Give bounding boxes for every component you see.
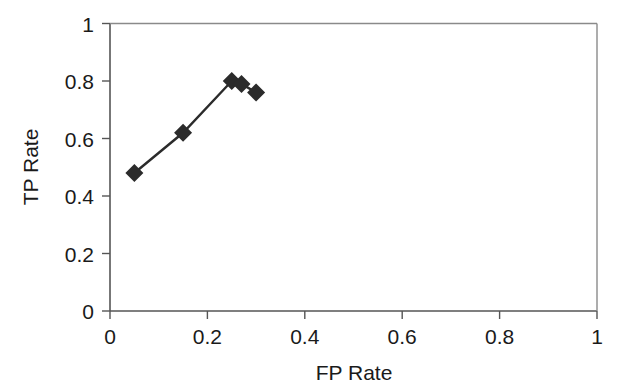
data-series-layer [125, 72, 265, 182]
data-point-marker[interactable] [247, 84, 265, 102]
y-axis-title: TP Rate [19, 129, 42, 206]
x-tick-labels: 0 0.2 0.4 0.6 0.8 1 [104, 325, 603, 348]
x-axis-ticks [110, 311, 597, 319]
x-tick-label-3: 0.6 [388, 325, 417, 348]
y-tick-label-0: 0 [82, 300, 94, 323]
roc-chart-figure: 0 0.2 0.4 0.6 0.8 1 0 0.2 0.4 0.6 0.8 1 … [0, 0, 631, 392]
y-axis-ticks [102, 24, 110, 312]
x-axis-title: FP Rate [316, 361, 393, 384]
x-tick-label-1: 0.2 [193, 325, 222, 348]
chart-canvas: 0 0.2 0.4 0.6 0.8 1 0 0.2 0.4 0.6 0.8 1 … [0, 0, 631, 392]
x-tick-label-2: 0.4 [290, 325, 320, 348]
y-tick-label-3: 0.6 [65, 128, 94, 151]
series-line-0 [134, 81, 256, 173]
y-tick-labels: 0 0.2 0.4 0.6 0.8 1 [65, 13, 95, 324]
x-tick-label-0: 0 [104, 325, 116, 348]
y-tick-label-2: 0.4 [65, 185, 95, 208]
y-tick-label-4: 0.8 [65, 70, 94, 93]
x-tick-label-4: 0.8 [485, 325, 514, 348]
y-tick-label-1: 0.2 [65, 243, 94, 266]
x-tick-label-5: 1 [591, 325, 603, 348]
plot-frame [110, 24, 597, 312]
y-tick-label-5: 1 [82, 13, 94, 36]
